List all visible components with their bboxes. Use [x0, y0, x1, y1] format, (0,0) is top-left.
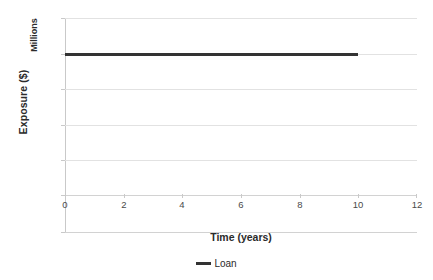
y-tick-25 [61, 18, 65, 19]
x-tick-4 [182, 194, 183, 198]
x-tick-10 [358, 194, 359, 198]
x-tick-label-2: 2 [111, 200, 137, 210]
gridline-5 [65, 160, 417, 161]
x-tick-8 [300, 194, 301, 198]
x-tick-label-6: 6 [228, 200, 254, 210]
gridline-25 [65, 18, 417, 19]
x-tick-label-0: 0 [52, 200, 78, 210]
series-line-loan [65, 53, 358, 56]
y-axis-title: Exposure ($) [17, 27, 29, 177]
gridline-minus5 [65, 232, 417, 233]
x-tick-label-8: 8 [287, 200, 313, 210]
gridline-15 [65, 89, 417, 90]
y-tick-15 [61, 89, 65, 90]
x-tick-label-12: 12 [404, 200, 430, 210]
x-tick-label-10: 10 [345, 200, 371, 210]
legend-label-loan: Loan [214, 258, 236, 269]
chart-container: Exposure ($) Millions Time (years) 25 20… [0, 0, 433, 280]
x-tick-6 [241, 194, 242, 198]
x-tick-2 [124, 194, 125, 198]
y-tick-5 [61, 160, 65, 161]
gridline-10 [65, 125, 417, 126]
y-tick-minus5 [61, 232, 65, 233]
y-axis-unit-label: Millions [29, 0, 39, 75]
y-tick-10 [61, 125, 65, 126]
chart-legend: Loan [0, 258, 433, 269]
legend-swatch-loan [196, 262, 211, 265]
x-tick-0 [65, 194, 66, 198]
x-tick-label-4: 4 [169, 200, 195, 210]
x-tick-12 [416, 194, 417, 198]
